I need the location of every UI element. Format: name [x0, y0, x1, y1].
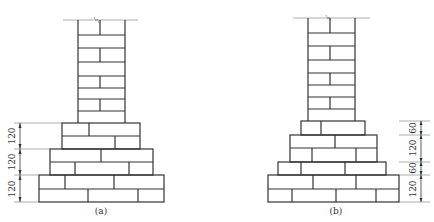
figure-b: 60 120 60 120 (b) — [268, 15, 430, 216]
dim-label-b-3: 60 — [408, 162, 418, 174]
dimension-b: 60 120 60 120 — [399, 121, 430, 202]
dim-label-a-1: 120 — [7, 127, 17, 144]
caption-b: (b) — [330, 206, 343, 216]
figure-a: 120 120 120 (a) — [7, 17, 164, 216]
caption-a: (a) — [95, 206, 107, 216]
brick-wall — [78, 20, 125, 123]
dim-label-b-1: 60 — [408, 122, 418, 134]
dim-label-b-4: 120 — [408, 180, 418, 197]
dim-label-a-3: 120 — [7, 180, 17, 197]
brick-footing-diagram: 120 120 120 (a) — [0, 0, 434, 222]
footing-b — [268, 121, 399, 202]
footing-a — [39, 123, 164, 202]
dim-label-b-2: 120 — [408, 139, 418, 156]
brick-wall — [308, 18, 355, 121]
dim-label-a-2: 120 — [7, 153, 17, 170]
